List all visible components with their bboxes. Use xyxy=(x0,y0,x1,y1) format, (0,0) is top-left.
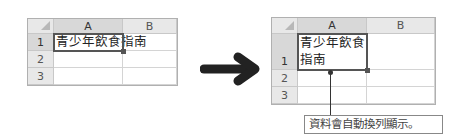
cell-a1-line-1: 青少年飲食 xyxy=(300,35,365,51)
cell-b1[interactable] xyxy=(367,34,435,70)
callout-note: 資料會自動換列顯示。 xyxy=(304,115,443,134)
row-header-2[interactable]: 2 xyxy=(272,70,298,87)
column-header-a[interactable]: A xyxy=(54,19,123,34)
select-all-triangle-icon xyxy=(41,21,50,30)
row-header-2[interactable]: 2 xyxy=(28,51,54,68)
row-header-3[interactable]: 3 xyxy=(28,68,54,85)
fill-handle[interactable] xyxy=(121,49,126,54)
column-header-a[interactable]: A xyxy=(298,18,367,34)
fill-handle[interactable] xyxy=(365,68,370,73)
cell-a1[interactable]: 青少年飲食 指南 xyxy=(298,34,367,70)
cell-a1-line-2: 指南 xyxy=(300,52,326,68)
cell-b3[interactable] xyxy=(367,87,435,104)
row-header-3[interactable]: 3 xyxy=(272,87,298,104)
cell-a3[interactable] xyxy=(54,68,123,85)
column-header-b[interactable]: B xyxy=(367,18,435,34)
cell-a2[interactable] xyxy=(54,51,123,68)
row-header-1[interactable]: 1 xyxy=(272,34,298,70)
cell-a1-text-overflow: 青少年飲食指南 xyxy=(56,34,147,50)
cell-b3[interactable] xyxy=(123,68,177,85)
column-header-b[interactable]: B xyxy=(123,19,177,34)
select-all-corner[interactable] xyxy=(28,19,54,34)
cell-b2[interactable] xyxy=(367,70,435,87)
callout-leader-line xyxy=(330,74,331,115)
cell-b2[interactable] xyxy=(123,51,177,68)
select-all-corner[interactable] xyxy=(272,18,298,34)
row-header-1[interactable]: 1 xyxy=(28,34,54,51)
cell-a3[interactable] xyxy=(298,87,367,104)
right-arrow-icon xyxy=(200,52,262,86)
select-all-triangle-icon xyxy=(285,21,294,30)
